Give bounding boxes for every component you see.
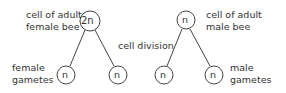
female-parent-label-line2: female bee xyxy=(26,21,80,32)
female-gamete-label-line2: gametes xyxy=(12,74,53,85)
male-parent-label-line1: cell of adult xyxy=(206,9,262,20)
male-parent-ploidy: n xyxy=(182,14,188,25)
male-gamete-label-line1: male xyxy=(230,62,254,73)
female-parent-ploidy: 2n xyxy=(81,15,94,26)
male-gamete-label-line2: gametes xyxy=(230,74,271,85)
female-gamete-left-ploidy: n xyxy=(62,69,68,80)
process-label: cell division xyxy=(118,40,174,51)
female-parent-label-line1: cell of adult xyxy=(26,9,82,20)
male-gamete-right-ploidy: n xyxy=(210,69,216,80)
female-gamete-right-ploidy: n xyxy=(114,69,120,80)
female-gamete-label-line1: female xyxy=(12,62,45,73)
male-parent-label-line2: male bee xyxy=(206,21,250,32)
male-gamete-left-ploidy: n xyxy=(160,69,166,80)
